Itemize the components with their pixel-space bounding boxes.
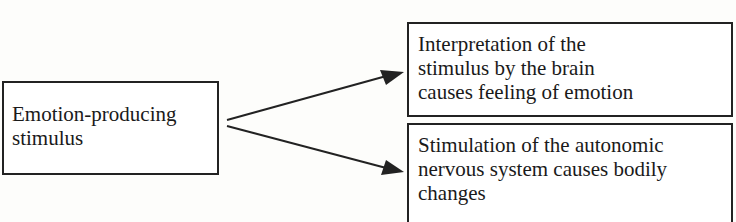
arrow-to-autonomic-stimulation — [227, 126, 404, 175]
arrow-to-brain-interpretation — [227, 70, 404, 120]
arrows-layer — [0, 0, 736, 222]
